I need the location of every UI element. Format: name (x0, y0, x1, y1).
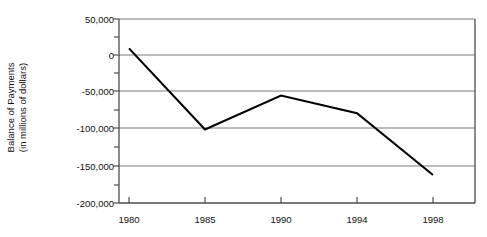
x-tick-label: 1985 (194, 214, 215, 225)
plot-frame (119, 19, 475, 203)
y-axis-minor-ticks (114, 37, 119, 185)
x-tick-label: 1980 (118, 214, 139, 225)
gridlines (119, 19, 475, 166)
x-tick-label: 1990 (270, 214, 291, 225)
x-axis-tick-labels: 1980 1985 1990 1994 1998 (0, 203, 487, 233)
x-tick-label: 1998 (422, 214, 443, 225)
x-tick-label: 1994 (346, 214, 367, 225)
plot-area (0, 0, 487, 237)
y-axis-major-ticks (113, 19, 119, 203)
data-series-line (129, 48, 433, 175)
chart-figure: Balance of Payments (in millions of doll… (0, 0, 487, 237)
